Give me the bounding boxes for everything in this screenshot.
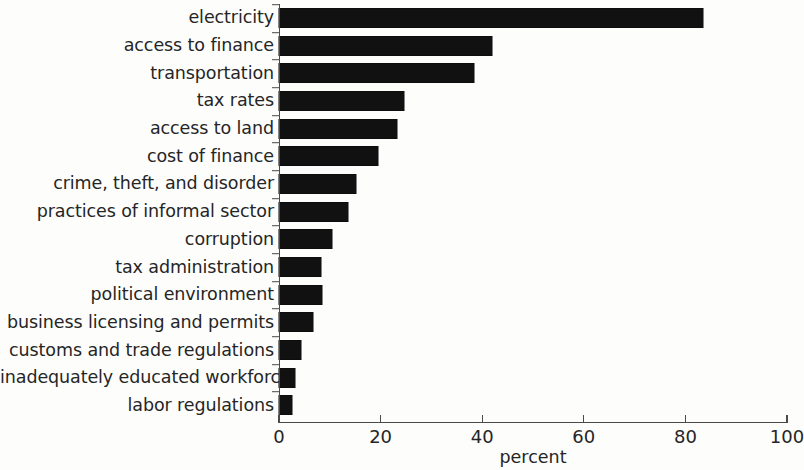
category-label: customs and trade regulations [0,341,274,360]
bar-track [279,230,332,249]
bar-row: inadequately educated workforce [0,364,804,392]
x-axis-tick [685,415,686,423]
bar-row: customs and trade regulations [0,336,804,364]
bar [279,341,301,360]
bar [279,91,404,110]
bar-track [279,36,492,55]
category-label: access to land [0,119,274,138]
x-axis-tick [278,415,279,423]
bar-row: tax rates [0,87,804,115]
bar-row: access to finance [0,32,804,60]
bar [279,230,332,249]
category-label: inadequately educated workforce [0,368,274,387]
category-label: access to finance [0,36,274,55]
bar-rows: electricityaccess to financetransportati… [0,4,804,419]
bar [279,202,348,221]
bar [279,147,378,166]
bar-track [279,119,397,138]
bar-track [279,202,348,221]
bar-track [279,91,404,110]
x-axis-tick [380,415,381,423]
bar-row: access to land [0,115,804,143]
category-label: cost of finance [0,147,274,166]
bar-track [279,341,301,360]
bar-track [279,313,313,332]
bar [279,36,492,55]
bar-track [279,147,378,166]
x-axis-tick-label: 0 [273,426,284,448]
y-axis-line [279,4,280,422]
bar-track [279,285,322,304]
bar-track [279,64,474,83]
bar-track [279,396,292,415]
category-label: transportation [0,64,274,83]
x-axis-tick-label: 60 [572,426,595,448]
x-axis-tick [583,415,584,423]
category-label: business licensing and permits [0,313,274,332]
x-axis-tick-label: 80 [674,426,697,448]
x-axis-tick-label: 20 [369,426,392,448]
bar-row: political environment [0,281,804,309]
bar-track [279,174,356,193]
bar-row: labor regulations [0,392,804,420]
x-axis-tick [482,415,483,423]
bar [279,174,356,193]
bar [279,64,474,83]
category-label: labor regulations [0,396,274,415]
bar-chart: electricityaccess to financetransportati… [0,0,804,470]
bar-row: crime, theft, and disorder [0,170,804,198]
bar [279,368,295,387]
x-axis-tick [786,415,787,423]
x-axis-tick-label: 100 [770,426,804,448]
category-label: tax rates [0,91,274,110]
category-label: crime, theft, and disorder [0,174,274,193]
category-label: practices of informal sector [0,202,274,221]
bar-row: electricity [0,4,804,32]
category-label: tax administration [0,258,274,277]
bar-track [279,8,703,27]
bar-row: tax administration [0,253,804,281]
plot-area: electricityaccess to financetransportati… [0,0,804,470]
category-label: corruption [0,230,274,249]
x-axis-line [279,422,788,423]
bar-row: corruption [0,226,804,254]
bar [279,8,703,27]
bar [279,285,322,304]
bar [279,258,321,277]
bar-track [279,368,295,387]
x-axis-tick-label: 40 [471,426,494,448]
bar-row: business licensing and permits [0,309,804,337]
bar-track [279,258,321,277]
category-label: political environment [0,285,274,304]
bar [279,313,313,332]
bar-row: cost of finance [0,142,804,170]
x-axis-title: percent [499,447,566,467]
bar [279,396,292,415]
bar-row: practices of informal sector [0,198,804,226]
category-label: electricity [0,8,274,27]
bar-row: transportation [0,59,804,87]
bar [279,119,397,138]
